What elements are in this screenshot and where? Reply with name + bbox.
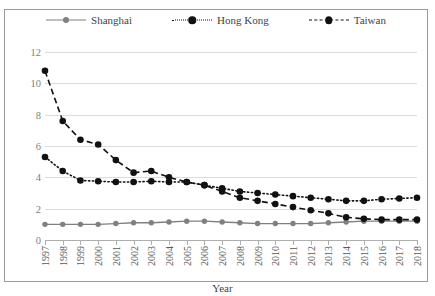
x-axis-tick-label: 2013: [323, 246, 334, 266]
x-axis-tick-label: 2001: [111, 246, 122, 266]
series-line: [45, 221, 417, 224]
x-axis-tick: [382, 240, 383, 245]
x-axis-tick-label: 2004: [164, 246, 175, 266]
x-axis-tick: [151, 240, 152, 245]
x-axis-tick-label: 2002: [129, 246, 140, 266]
data-point[interactable]: [219, 219, 224, 224]
data-point[interactable]: [325, 210, 332, 217]
data-point[interactable]: [77, 136, 84, 143]
data-point[interactable]: [378, 196, 385, 203]
x-axis-tick: [45, 240, 46, 245]
data-point[interactable]: [361, 198, 368, 205]
data-point[interactable]: [42, 222, 47, 227]
data-point[interactable]: [148, 168, 155, 175]
x-axis-tick: [204, 240, 205, 245]
data-series-layer: [45, 52, 417, 240]
data-point[interactable]: [237, 194, 244, 201]
data-point[interactable]: [325, 196, 332, 203]
data-point[interactable]: [307, 207, 314, 214]
y-axis-tick-labels: 024681012: [9, 52, 41, 240]
y-axis-tick-label: 4: [11, 172, 41, 183]
data-point[interactable]: [272, 201, 279, 208]
data-point[interactable]: [130, 169, 137, 176]
data-point[interactable]: [59, 118, 66, 125]
data-point[interactable]: [326, 220, 331, 225]
data-point[interactable]: [42, 154, 49, 161]
data-point[interactable]: [131, 220, 136, 225]
legend-label-shanghai: Shanghai: [91, 14, 132, 26]
data-point[interactable]: [361, 216, 368, 223]
data-point[interactable]: [290, 193, 297, 200]
data-point[interactable]: [414, 216, 421, 223]
x-axis-tick-labels: 1997199819992000200120022003200420052006…: [45, 246, 417, 282]
data-point[interactable]: [130, 179, 137, 186]
data-point[interactable]: [202, 219, 207, 224]
data-point[interactable]: [396, 216, 403, 223]
x-axis-tick-label: 2014: [341, 246, 352, 266]
x-axis-tick-label: 2007: [217, 246, 228, 266]
data-point[interactable]: [219, 188, 226, 195]
data-point[interactable]: [184, 219, 189, 224]
data-point[interactable]: [237, 220, 242, 225]
x-axis-tick-label: 2003: [146, 246, 157, 266]
data-point[interactable]: [396, 195, 403, 202]
data-point[interactable]: [307, 194, 314, 201]
data-point[interactable]: [113, 179, 120, 186]
data-point[interactable]: [42, 68, 49, 75]
x-axis-tick: [293, 240, 294, 245]
y-axis-tick-label: 0: [11, 235, 41, 246]
data-point[interactable]: [113, 221, 118, 226]
data-point[interactable]: [77, 177, 84, 184]
data-point[interactable]: [254, 190, 261, 197]
data-point[interactable]: [183, 179, 190, 186]
plot-area: [45, 52, 417, 240]
x-axis-tick-label: 1997: [40, 246, 51, 266]
data-point[interactable]: [95, 141, 102, 148]
data-point[interactable]: [201, 182, 208, 189]
x-axis-tick: [116, 240, 117, 245]
legend-marker-taiwan: [309, 14, 349, 26]
data-point[interactable]: [149, 220, 154, 225]
x-axis-tick: [169, 240, 170, 245]
data-point[interactable]: [378, 216, 385, 223]
x-axis-tick: [311, 240, 312, 245]
data-point[interactable]: [60, 222, 65, 227]
data-point[interactable]: [95, 222, 100, 227]
data-point[interactable]: [308, 221, 313, 226]
data-point[interactable]: [59, 168, 66, 175]
data-point[interactable]: [148, 178, 155, 185]
data-point[interactable]: [237, 188, 244, 195]
legend-label-taiwan: Taiwan: [354, 14, 386, 26]
data-point[interactable]: [290, 204, 297, 211]
x-axis-tick-label: 2012: [306, 246, 317, 266]
legend-marker-hong-kong: [172, 14, 212, 26]
data-point[interactable]: [272, 191, 279, 198]
data-point[interactable]: [273, 221, 278, 226]
data-point[interactable]: [343, 214, 350, 221]
data-point[interactable]: [78, 222, 83, 227]
x-axis-tick: [399, 240, 400, 245]
data-point[interactable]: [113, 157, 120, 164]
legend-item-shanghai[interactable]: Shanghai: [46, 14, 132, 26]
x-axis-tick-label: 2009: [253, 246, 264, 266]
legend-item-hong-kong[interactable]: Hong Kong: [172, 14, 269, 26]
x-axis-tick: [417, 240, 418, 245]
data-point[interactable]: [414, 194, 421, 201]
x-axis-tick-label: 2010: [270, 246, 281, 266]
x-axis-tick: [187, 240, 188, 245]
data-point[interactable]: [254, 198, 261, 205]
x-axis-tick: [98, 240, 99, 245]
data-point[interactable]: [290, 221, 295, 226]
x-axis-tick: [346, 240, 347, 245]
data-point[interactable]: [166, 174, 173, 181]
chart-legend: Shanghai Hong Kong Taiwan: [5, 14, 427, 26]
x-axis-tick: [240, 240, 241, 245]
data-point[interactable]: [166, 219, 171, 224]
data-point[interactable]: [343, 198, 350, 205]
legend-item-taiwan[interactable]: Taiwan: [309, 14, 386, 26]
x-axis-tick-label: 1999: [75, 246, 86, 266]
x-axis-ticks: [45, 240, 417, 245]
x-axis-tick-label: 1998: [58, 246, 69, 266]
data-point[interactable]: [255, 221, 260, 226]
data-point[interactable]: [95, 178, 102, 185]
